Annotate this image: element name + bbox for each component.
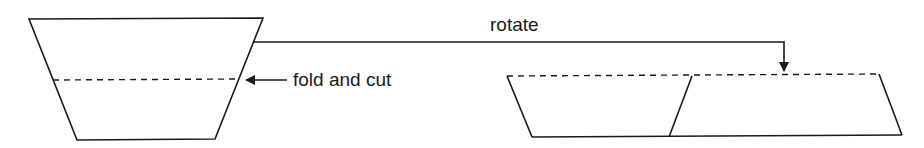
fold-and-cut-label: fold and cut <box>293 69 392 90</box>
fold-rotate-diagram: fold and cut rotate <box>0 0 924 148</box>
right-edge <box>879 74 902 135</box>
left-edge <box>507 76 532 137</box>
rotate-connector: rotate <box>253 14 784 71</box>
bottom-edge <box>532 135 902 137</box>
fold-and-cut-callout: fold and cut <box>246 69 392 90</box>
middle-edge <box>669 76 692 137</box>
rotate-label: rotate <box>490 14 539 35</box>
parallelogram-pair <box>507 74 902 137</box>
fold-line <box>53 79 239 80</box>
down-arrow-icon <box>253 42 784 71</box>
trapezoid-shape <box>29 18 263 140</box>
top-dashed-edge <box>507 74 879 76</box>
